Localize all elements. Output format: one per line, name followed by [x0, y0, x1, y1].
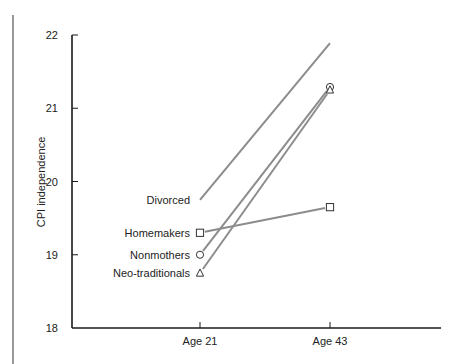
series-label-divorced: Divorced — [147, 194, 190, 206]
series-lines — [196, 43, 333, 276]
y-axis-ticks: 1819202122 — [46, 29, 78, 334]
y-tick-label: 21 — [46, 102, 58, 114]
series-line — [203, 91, 327, 251]
series-label-homemakers: Homemakers — [125, 227, 191, 239]
series-line — [205, 208, 325, 232]
y-axis-label: CPI independence — [35, 137, 47, 228]
series-nonmothers — [196, 83, 333, 258]
square-marker-icon — [326, 204, 333, 211]
series-line — [200, 43, 330, 200]
square-marker-icon — [196, 229, 203, 236]
x-tick-label: Age 43 — [313, 335, 348, 347]
y-tick-label: 22 — [46, 29, 58, 41]
triangle-marker-icon — [196, 269, 203, 276]
x-tick-label: Age 21 — [183, 335, 218, 347]
series-label-neo-traditionals: Neo-traditionals — [113, 267, 191, 279]
series-labels: DivorcedHomemakersNonmothersNeo-traditio… — [113, 194, 191, 279]
line-chart: 1819202122 Age 21Age 43 CPI independence… — [0, 0, 471, 364]
series-label-nonmothers: Nonmothers — [130, 249, 190, 261]
y-tick-label: 20 — [46, 176, 58, 188]
x-axis-ticks: Age 21Age 43 — [183, 322, 348, 347]
y-tick-label: 19 — [46, 249, 58, 261]
circle-marker-icon — [196, 251, 203, 258]
series-divorced — [200, 43, 330, 200]
series-neo-traditionals — [196, 86, 333, 276]
y-tick-label: 18 — [46, 322, 58, 334]
